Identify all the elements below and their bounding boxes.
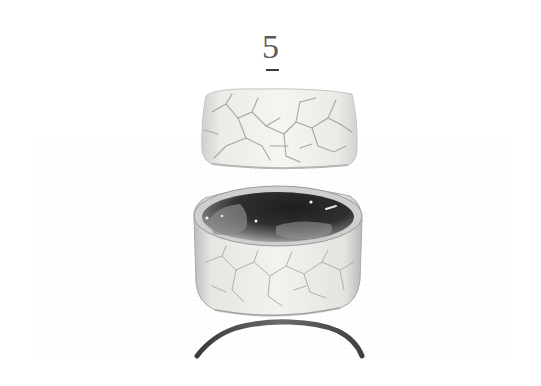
- bowl: [194, 186, 362, 316]
- ring-foot: [197, 322, 362, 356]
- lid: [202, 89, 357, 168]
- vessel-illustration: [0, 0, 541, 386]
